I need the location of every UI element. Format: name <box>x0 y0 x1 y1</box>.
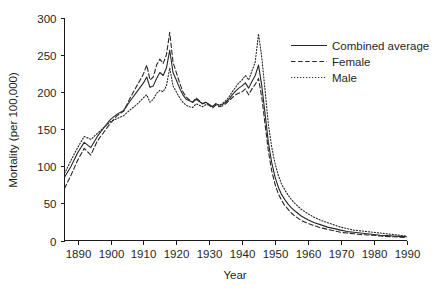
legend-label-female: Female <box>332 56 370 68</box>
legend-item-combined-average: Combined average <box>291 40 429 52</box>
y-tick-label: 150 <box>37 124 56 136</box>
legend-label-combined-average: Combined average <box>332 40 429 52</box>
x-tick-label: 1890 <box>66 248 92 260</box>
chart-canvas: 050100150200250300 189019001910192019301… <box>0 0 437 290</box>
y-tick-label: 200 <box>37 87 56 99</box>
x-tick-label: 1920 <box>164 248 190 260</box>
x-axis-title: Year <box>223 269 246 281</box>
legend: Combined average Female Male <box>291 40 429 84</box>
x-axis-ticks: 1890190019101920193019401950196019701980… <box>66 241 421 260</box>
x-tick-label: 1960 <box>296 248 322 260</box>
x-tick-label: 1900 <box>99 248 125 260</box>
y-tick-label: 100 <box>37 161 56 173</box>
x-tick-label: 1980 <box>362 248 388 260</box>
x-tick-label: 1950 <box>263 248 289 260</box>
legend-item-female: Female <box>291 56 370 68</box>
x-tick-label: 1970 <box>329 248 355 260</box>
x-tick-label: 1910 <box>131 248 157 260</box>
x-tick-label: 1990 <box>395 248 421 260</box>
y-tick-label: 250 <box>37 50 56 62</box>
y-axis-title: Mortality (per 100,000) <box>7 72 19 188</box>
legend-item-male: Male <box>291 72 357 84</box>
y-tick-label: 300 <box>37 13 56 25</box>
legend-label-male: Male <box>332 72 357 84</box>
y-tick-label: 0 <box>50 236 56 248</box>
y-axis-ticks: 050100150200250300 <box>37 13 64 248</box>
x-tick-label: 1930 <box>197 248 223 260</box>
x-tick-label: 1940 <box>230 248 256 260</box>
y-tick-label: 50 <box>44 198 57 210</box>
mortality-chart: 050100150200250300 189019001910192019301… <box>0 0 437 290</box>
